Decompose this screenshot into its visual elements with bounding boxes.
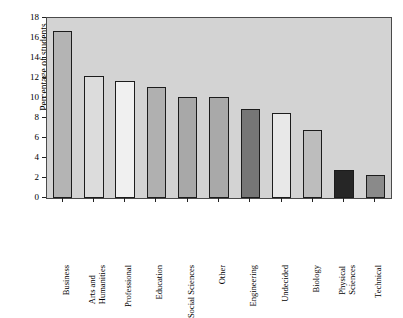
x-tick-label: Other xyxy=(218,265,228,284)
x-tick-label: Undecided xyxy=(281,265,291,302)
y-tick-label: 18 xyxy=(30,11,39,23)
x-tick-label-line: Technical xyxy=(374,265,384,298)
bar xyxy=(241,109,260,198)
x-tick-mark xyxy=(187,198,188,202)
x-tick-label-line: Professional xyxy=(124,265,134,307)
y-tick-label: 0 xyxy=(35,191,40,203)
x-tick-mark xyxy=(62,198,63,202)
x-tick-label: Engineering xyxy=(249,265,259,307)
x-tick-label-line: Humanities xyxy=(98,265,108,304)
x-tick-label: Social Sciences xyxy=(187,265,197,318)
bar xyxy=(178,97,197,199)
plot-area xyxy=(46,17,392,199)
bar xyxy=(147,87,166,199)
x-tick-label: Technical xyxy=(374,265,384,298)
x-tick-label-line: Business xyxy=(62,265,72,295)
bar xyxy=(84,76,103,198)
x-tick-mark xyxy=(249,198,250,202)
x-tick-label: Biology xyxy=(312,265,322,292)
x-tick-mark xyxy=(124,198,125,202)
y-tick-label: 14 xyxy=(30,51,39,63)
x-tick-mark xyxy=(155,198,156,202)
x-tick-label-line: Education xyxy=(155,265,165,299)
x-tick-label: Arts andHumanities xyxy=(88,265,107,304)
y-tick-label: 8 xyxy=(35,111,40,123)
x-tick-mark xyxy=(218,198,219,202)
bar xyxy=(209,97,228,198)
x-tick-label-line: Undecided xyxy=(281,265,291,302)
bar xyxy=(334,170,353,199)
y-axis-ticks: 024681012141618 xyxy=(0,0,48,268)
x-tick-label: Education xyxy=(155,265,165,299)
x-tick-label: Professional xyxy=(124,265,134,307)
x-tick-mark xyxy=(93,198,94,202)
y-tick-label: 10 xyxy=(30,91,39,103)
bar xyxy=(53,31,72,198)
x-tick-mark xyxy=(312,198,313,202)
x-tick-label-line: Other xyxy=(218,265,228,284)
x-tick-mark xyxy=(343,198,344,202)
x-tick-label-line: Social Sciences xyxy=(187,265,197,318)
y-tick-label: 12 xyxy=(30,71,39,83)
y-tick-label: 2 xyxy=(35,171,40,183)
bar xyxy=(115,81,134,198)
x-tick-mark xyxy=(281,198,282,202)
x-tick-label-line: Biology xyxy=(312,265,322,292)
y-tick-label: 16 xyxy=(30,31,39,43)
y-tick-label: 6 xyxy=(35,131,40,143)
bar xyxy=(272,113,291,199)
x-tick-label-line: Engineering xyxy=(249,265,259,307)
bar xyxy=(366,175,385,199)
bar-series xyxy=(47,18,391,198)
y-tick-label: 4 xyxy=(35,151,40,163)
x-axis-labels: BusinessArts andHumanitiesProfessionalEd… xyxy=(46,203,390,268)
x-tick-label-line: Sciences xyxy=(348,265,358,295)
x-tick-label: PhysicalSciences xyxy=(338,265,357,295)
x-tick-label: Business xyxy=(62,265,72,295)
x-tick-mark xyxy=(374,198,375,202)
bar xyxy=(303,130,322,198)
